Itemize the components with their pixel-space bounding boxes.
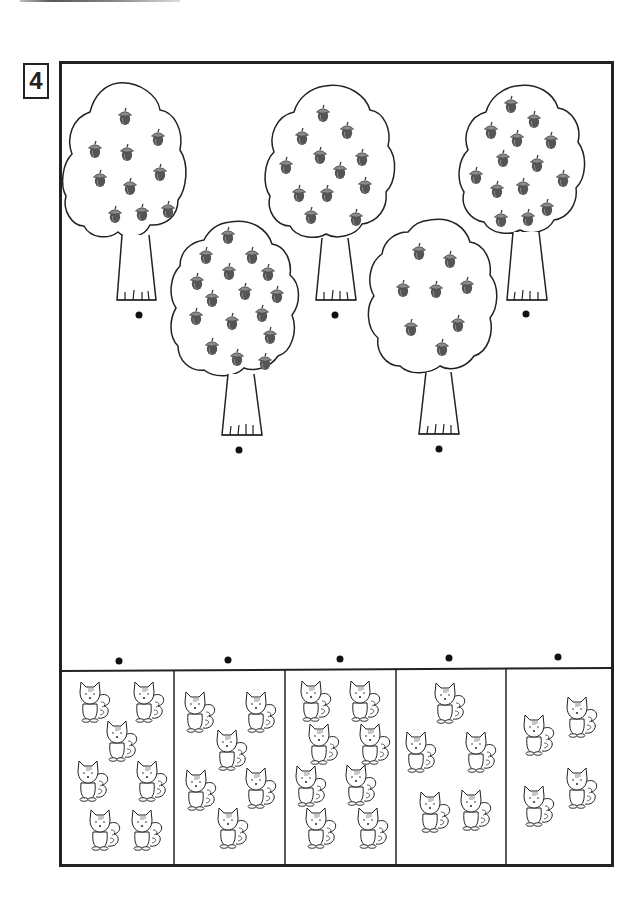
squirrel-icon bbox=[296, 681, 390, 848]
tree-4-match-dot[interactable] bbox=[436, 446, 443, 453]
tree-1-match-dot[interactable] bbox=[136, 312, 143, 319]
tree-5-match-dot[interactable] bbox=[523, 311, 530, 318]
worksheet-scene bbox=[0, 0, 642, 905]
squirrel-icon bbox=[524, 697, 597, 826]
box-5-match-dot[interactable] bbox=[555, 654, 562, 661]
box-3-match-dot[interactable] bbox=[337, 656, 344, 663]
squirrel-icon bbox=[406, 683, 496, 832]
box-2-match-dot[interactable] bbox=[225, 657, 232, 664]
tree-2 bbox=[171, 221, 299, 435]
boxes-top-divider bbox=[61, 668, 612, 671]
squirrel-box-4 bbox=[406, 683, 496, 832]
box-1-match-dot[interactable] bbox=[116, 658, 123, 665]
tree-3-match-dot[interactable] bbox=[332, 312, 339, 319]
box-4-match-dot[interactable] bbox=[446, 655, 453, 662]
squirrel-box-1 bbox=[78, 682, 167, 850]
squirrel-box-2 bbox=[185, 692, 276, 848]
squirrel-box-5 bbox=[524, 697, 597, 826]
squirrel-box-3 bbox=[296, 681, 390, 848]
squirrel-icon bbox=[78, 682, 167, 850]
tree-4 bbox=[368, 219, 496, 434]
tree-1 bbox=[63, 83, 186, 300]
squirrel-icon bbox=[185, 692, 276, 848]
tree-2-match-dot[interactable] bbox=[236, 447, 243, 454]
